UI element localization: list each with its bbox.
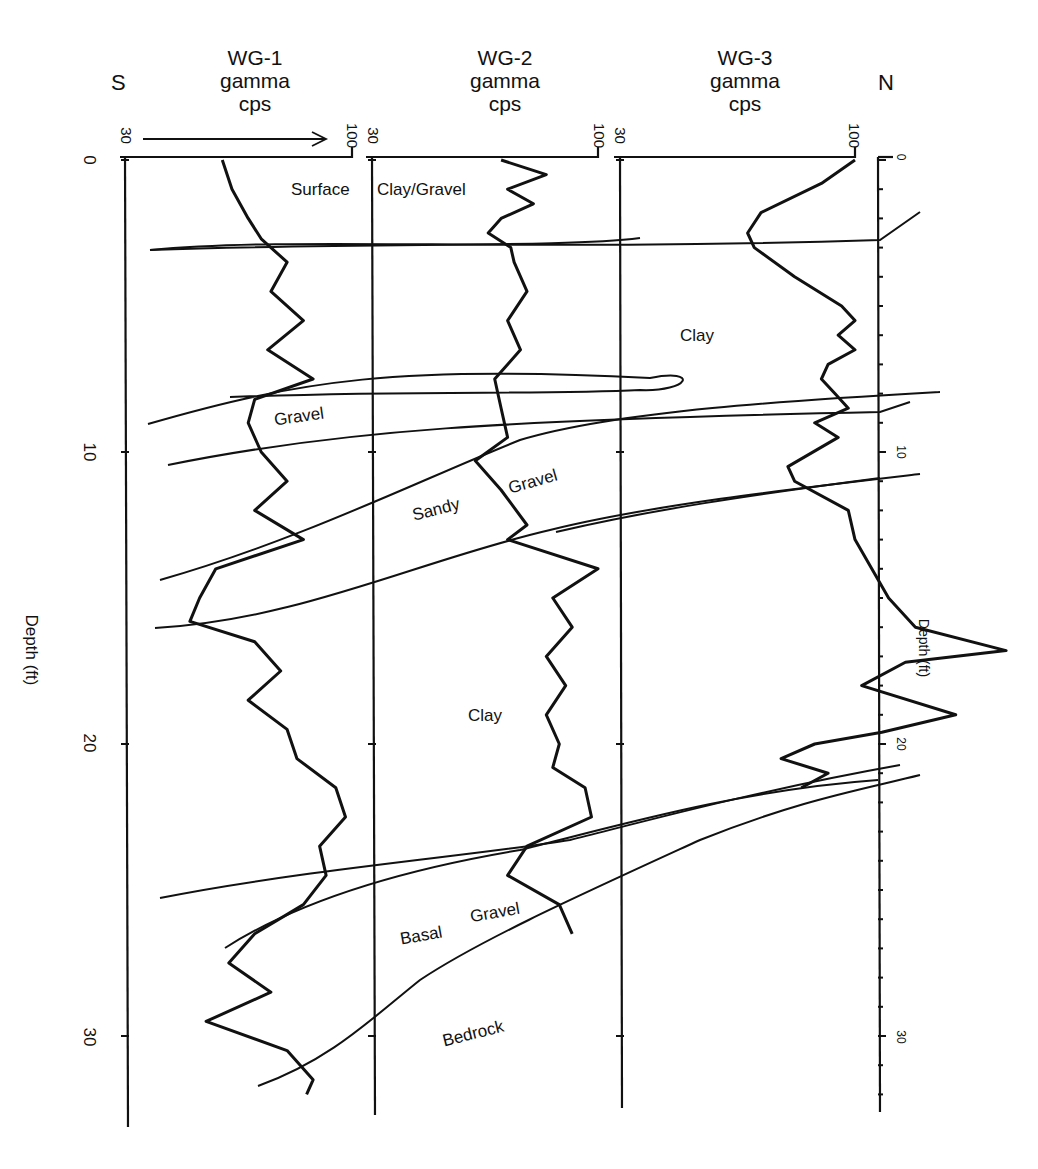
right-depth-axis-title: Depth (ft) <box>916 619 932 677</box>
unit-label-surface: Surface <box>291 180 350 200</box>
well-unit: cps <box>690 92 800 115</box>
left-depth-0: 0 <box>79 155 99 164</box>
wg2-baseline <box>372 157 375 1115</box>
well-name: WG-3 <box>690 46 800 69</box>
right-depth-20: 20 <box>894 737 908 750</box>
gamma-curves <box>190 160 1006 1094</box>
increase-arrow-icon <box>143 132 326 146</box>
gamma-curve-1 <box>190 160 346 1094</box>
south-label: S <box>111 70 126 96</box>
right-depth-30: 30 <box>894 1030 908 1043</box>
right-depth-axis <box>878 157 880 1112</box>
well-measure: gamma <box>450 69 560 92</box>
gamma-curve-2 <box>475 160 598 934</box>
well-measure: gamma <box>690 69 800 92</box>
left-depth-axis-title: Depth (ft) <box>21 615 41 686</box>
left-depth-30: 30 <box>79 1028 99 1047</box>
well-header-wg2: WG-2 gamma cps <box>450 46 560 115</box>
well-unit: cps <box>450 92 560 115</box>
unit-label-clay-upper: Clay <box>680 326 714 346</box>
axes <box>120 132 893 1127</box>
unit-label-clay-lower: Clay <box>468 706 502 726</box>
well-header-wg3: WG-3 gamma cps <box>690 46 800 115</box>
wg2-scale-bar <box>366 147 598 157</box>
wg2-scale-min: 30 <box>365 127 382 144</box>
gamma-curve-3 <box>748 160 1007 788</box>
left-depth-axis <box>125 157 128 1127</box>
left-depth-20: 20 <box>79 734 99 753</box>
wg1-scale-bar <box>120 147 352 157</box>
north-label: N <box>878 70 894 96</box>
well-measure: gamma <box>200 69 310 92</box>
right-depth-0: 0 <box>894 154 908 161</box>
wg3-baseline <box>620 157 622 1108</box>
well-name: WG-2 <box>450 46 560 69</box>
strat-boundaries <box>148 212 940 1086</box>
gamma-log-cross-section <box>0 0 1038 1169</box>
left-depth-10: 10 <box>79 443 99 462</box>
wg2-scale-max: 100 <box>591 123 608 148</box>
well-unit: cps <box>200 92 310 115</box>
right-depth-10: 10 <box>894 445 908 458</box>
wg3-scale-bar <box>614 147 855 157</box>
well-header-wg1: WG-1 gamma cps <box>200 46 310 115</box>
wg1-scale-min: 30 <box>118 127 135 144</box>
wg3-scale-min: 30 <box>612 127 629 144</box>
unit-label-clay-gravel: Clay/Gravel <box>377 180 466 200</box>
wg3-scale-max: 100 <box>846 123 863 148</box>
wg1-scale-max: 100 <box>344 123 361 148</box>
well-name: WG-1 <box>200 46 310 69</box>
